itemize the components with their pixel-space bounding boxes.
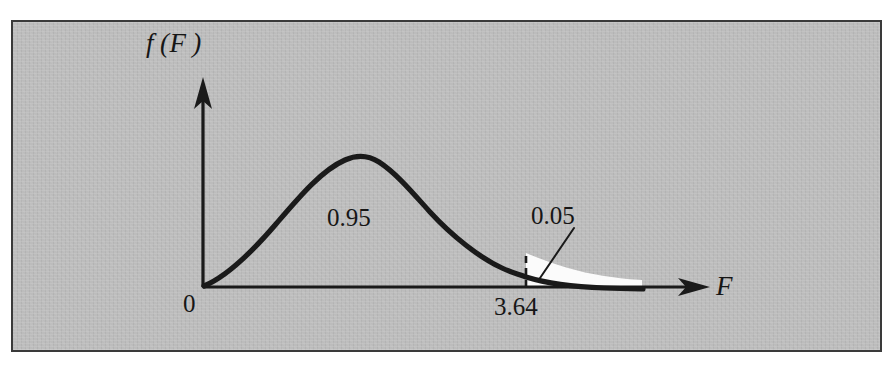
plot-canvas [0, 0, 896, 370]
tail-probability-label: 0.05 [531, 202, 575, 230]
cutoff-value-label: 3.64 [494, 293, 538, 321]
density-curve [204, 156, 643, 289]
y-axis-label: f (F ) [146, 28, 202, 59]
body-probability-label: 0.95 [327, 204, 371, 232]
origin-label: 0 [183, 290, 196, 318]
x-axis-label: F [716, 271, 733, 302]
figure-root: f (F ) F 0 3.64 0.95 0.05 [0, 0, 896, 370]
